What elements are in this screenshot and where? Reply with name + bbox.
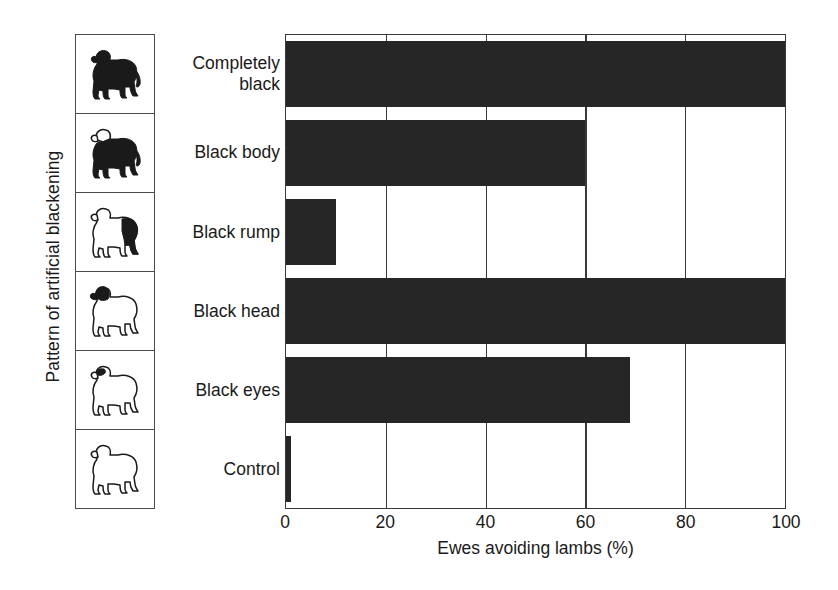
lamb-black-head-icon bbox=[76, 272, 154, 351]
category-label-black-body: Black body bbox=[160, 113, 282, 192]
category-label-line: Black body bbox=[194, 142, 280, 163]
bar-row bbox=[286, 350, 785, 429]
lamb-completely-black-icon bbox=[76, 35, 154, 114]
category-label-line: Control bbox=[224, 459, 280, 480]
bar-black-eyes bbox=[286, 357, 630, 423]
category-label-line: Black eyes bbox=[195, 380, 280, 401]
bar-row bbox=[286, 114, 785, 193]
bar-black-rump bbox=[286, 199, 336, 265]
bar-black-head bbox=[286, 278, 785, 344]
category-label-line: Black rump bbox=[192, 222, 280, 243]
x-tick-label-20: 20 bbox=[375, 512, 394, 533]
bars-layer bbox=[286, 35, 785, 508]
category-label-line: Completely bbox=[192, 53, 280, 74]
category-label-black-eyes: Black eyes bbox=[160, 351, 282, 430]
lamb-icon-column bbox=[75, 34, 155, 509]
bar-row bbox=[286, 193, 785, 272]
x-tick-label-100: 100 bbox=[771, 512, 800, 533]
bar-row bbox=[286, 429, 785, 508]
lamb-black-eyes-icon bbox=[76, 351, 154, 430]
y-axis-title: Pattern of artificial blackening bbox=[43, 52, 64, 482]
category-label-black-head: Black head bbox=[160, 272, 282, 351]
lamb-black-rump-icon bbox=[76, 193, 154, 272]
category-label-black-rump: Black rump bbox=[160, 192, 282, 271]
x-tick-label-0: 0 bbox=[280, 512, 290, 533]
category-label-control: Control bbox=[160, 430, 282, 509]
bar-control bbox=[286, 436, 291, 502]
x-axis-title: Ewes avoiding lambs (%) bbox=[285, 538, 786, 559]
category-label-line: Black head bbox=[193, 301, 280, 322]
category-label-completely-black: Completely black bbox=[160, 34, 282, 113]
x-tick-label-80: 80 bbox=[676, 512, 695, 533]
x-axis: 020406080100 bbox=[285, 509, 786, 539]
bar-row bbox=[286, 35, 785, 114]
x-tick-label-60: 60 bbox=[576, 512, 595, 533]
bar-black-body bbox=[286, 120, 585, 186]
category-label-line: black bbox=[192, 74, 280, 95]
bar-chart-figure: Pattern of artificial blackening bbox=[0, 0, 838, 590]
bar-row bbox=[286, 271, 785, 350]
x-tick-label-40: 40 bbox=[476, 512, 495, 533]
lamb-black-body-icon bbox=[76, 114, 154, 193]
category-label-column: Completely black Black body Black rump B… bbox=[160, 34, 282, 509]
lamb-control-icon bbox=[76, 430, 154, 508]
bar-completely-black bbox=[286, 41, 785, 107]
plot-area bbox=[285, 34, 786, 509]
